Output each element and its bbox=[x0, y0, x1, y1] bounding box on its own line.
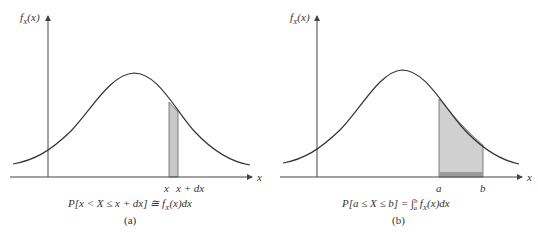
tick-label-b: b bbox=[480, 182, 486, 194]
density-curve bbox=[13, 73, 250, 165]
probability-area bbox=[439, 99, 483, 177]
formula-a: P[x < X ≤ x + dx] ≅ fX(x)dx bbox=[67, 197, 192, 212]
y-axis-label: fX(x) bbox=[20, 11, 40, 26]
formula-b: P[a ≤ X ≤ b] = ∫ba fX(x)dx bbox=[341, 197, 450, 212]
shade-base bbox=[439, 172, 483, 177]
panel-b: fX(x) x a b P[a ≤ X ≤ b] = ∫ba fX(x)dx (… bbox=[280, 11, 532, 227]
y-axis-label: fX(x) bbox=[290, 11, 310, 26]
tick-label-x: x bbox=[163, 182, 169, 194]
density-curve bbox=[283, 70, 519, 164]
caption-b: (b) bbox=[392, 214, 405, 227]
panel-a: fX(x) x x x + dx P[x < X ≤ x + dx] ≅ fX(… bbox=[10, 11, 262, 227]
probability-strip bbox=[169, 102, 178, 177]
x-axis-label: x bbox=[256, 171, 262, 183]
tick-label-x-plus-dx: x + dx bbox=[175, 182, 204, 194]
x-axis-label: x bbox=[526, 171, 532, 183]
caption-a: (a) bbox=[124, 214, 137, 227]
tick-label-a: a bbox=[436, 182, 442, 194]
figure-canvas: fX(x) x x x + dx P[x < X ≤ x + dx] ≅ fX(… bbox=[0, 0, 538, 233]
